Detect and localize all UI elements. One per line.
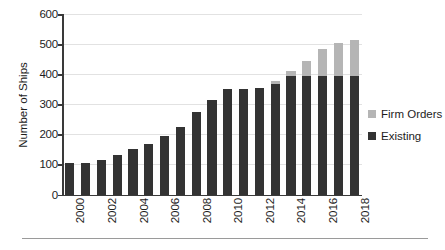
bar	[223, 89, 232, 194]
bar	[334, 43, 343, 195]
bar-group	[62, 14, 362, 195]
bar	[239, 89, 248, 195]
x-tick-label: 2006	[169, 198, 181, 223]
bar	[302, 61, 311, 195]
y-tick-label: 300	[39, 98, 58, 110]
x-tick-label: 2010	[232, 198, 244, 223]
y-tick-label: 100	[39, 158, 58, 170]
x-tick-label: 2016	[327, 198, 339, 223]
x-tick-label: 2008	[201, 198, 213, 223]
bar-segment-firm-orders	[350, 40, 359, 75]
bar-segment-existing	[81, 163, 90, 195]
bar	[128, 149, 137, 194]
bar	[207, 100, 216, 195]
bar-segment-existing	[160, 136, 169, 194]
bar-segment-existing	[239, 89, 248, 195]
bar-segment-existing	[223, 89, 232, 194]
y-tick-label: 500	[39, 38, 58, 50]
bar-segment-existing	[113, 155, 122, 194]
bar	[113, 155, 122, 194]
footer-divider	[22, 238, 428, 239]
bar-segment-firm-orders	[318, 49, 327, 76]
bar-segment-existing	[97, 160, 106, 195]
chart-legend: Firm OrdersExisting	[368, 108, 442, 152]
bar-segment-existing	[302, 76, 311, 195]
bar-segment-existing	[318, 76, 327, 195]
bar	[286, 71, 295, 195]
bar-segment-firm-orders	[286, 71, 295, 76]
bar-segment-existing	[176, 127, 185, 194]
x-axis-line	[62, 195, 362, 197]
bar-segment-existing	[144, 144, 153, 194]
y-tick-label: 200	[39, 128, 58, 140]
bar-segment-existing	[350, 76, 359, 195]
bar	[255, 88, 264, 194]
x-tick-label: 2004	[138, 198, 150, 223]
x-tick-label: 2000	[74, 198, 86, 223]
bar-segment-existing	[192, 112, 201, 194]
x-tick-label: 2002	[106, 198, 118, 223]
legend-swatch-icon	[368, 132, 376, 140]
bar-segment-existing	[128, 149, 137, 194]
x-tick-label: 2014	[295, 198, 307, 223]
y-tick-mark	[58, 195, 62, 197]
bar	[318, 49, 327, 195]
bar-segment-existing	[207, 100, 216, 195]
bar	[271, 81, 280, 195]
bar	[97, 160, 106, 195]
bar	[65, 163, 74, 195]
legend-swatch-icon	[368, 110, 376, 118]
bar-segment-existing	[271, 84, 280, 195]
bar	[350, 40, 359, 194]
plot-area	[62, 14, 362, 196]
bar	[144, 144, 153, 194]
bar-segment-firm-orders	[271, 81, 280, 84]
bar-segment-existing	[334, 76, 343, 195]
legend-label: Firm Orders	[381, 108, 442, 120]
bar	[160, 136, 169, 194]
y-tick-label: 600	[39, 8, 58, 20]
y-axis-tick-labels: 0100200300400500600	[14, 14, 58, 196]
x-tick-label: 2012	[264, 198, 276, 223]
legend-label: Existing	[381, 130, 421, 142]
bar	[176, 127, 185, 194]
y-tick-label: 400	[39, 68, 58, 80]
x-tick-label: 2018	[359, 198, 371, 223]
bar-segment-firm-orders	[302, 61, 311, 76]
legend-item[interactable]: Firm Orders	[368, 108, 442, 120]
bar-segment-existing	[255, 88, 264, 194]
bar-segment-existing	[286, 76, 295, 195]
bar-segment-firm-orders	[334, 43, 343, 76]
chart-figure: Number of Ships 0100200300400500600 2000…	[0, 0, 445, 250]
bar	[81, 163, 90, 195]
bar-segment-existing	[65, 163, 74, 195]
bar	[192, 112, 201, 194]
legend-item[interactable]: Existing	[368, 130, 442, 142]
